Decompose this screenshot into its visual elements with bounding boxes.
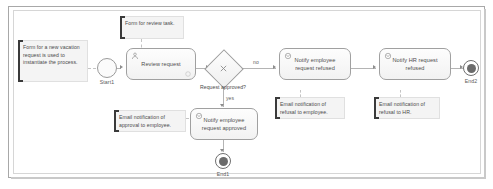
task-review-request[interactable]: Review request (126, 48, 196, 80)
note-start-form: Form for a new vacation request is used … (18, 40, 88, 82)
note-refusal-hr: Email notification of refusal to HR. (374, 97, 440, 119)
end-event-end1-label: End1 (203, 171, 243, 177)
flow-arrow-gateway-no (273, 65, 276, 69)
flow-label-no: no (253, 59, 259, 65)
task-review-request-label: Review request (141, 61, 180, 69)
note-refusal-hr-text: Email notification of refusal to HR. (379, 101, 425, 115)
start-event-label: Start1 (87, 79, 127, 85)
note-start-form-text: Form for a new vacation request is used … (23, 44, 80, 65)
note-approval-email-text: Email notification of approval to employ… (119, 114, 171, 128)
flow-arrow-refused-to-hr (373, 65, 376, 69)
flow-arrow-approved-to-end1 (220, 149, 224, 152)
end-event-end2[interactable] (463, 60, 479, 76)
end-event-end2-label: End2 (451, 78, 491, 84)
note-review-form: Form for review task. (120, 16, 184, 39)
task-notify-hr-refused-label: Notify HR request refused (385, 57, 445, 72)
end-event-end1[interactable] (215, 153, 231, 169)
message-task-icon (195, 112, 203, 120)
message-task-icon (284, 52, 292, 60)
note-approval-email: Email notification of approval to employ… (114, 110, 186, 132)
message-task-icon (384, 52, 392, 60)
end-event-core (467, 64, 476, 73)
assoc-refusal-employee-note-h (300, 90, 302, 97)
task-notify-hr-refused[interactable]: Notify HR request refused (379, 48, 451, 80)
start-event-start1[interactable] (97, 58, 117, 78)
end-event-core (219, 157, 228, 166)
task-resize-handle-icon (185, 71, 191, 77)
diagram-canvas: Form for a new vacation request is used … (0, 0, 493, 189)
task-notify-employee-approved-label: Notify employee request approved (196, 117, 252, 132)
flow-arrow-start-to-review (120, 65, 123, 69)
flow-label-yes: yes (226, 95, 234, 101)
assoc-start-note-h (88, 68, 96, 69)
assoc-refusal-hr-note-h (400, 90, 402, 97)
user-task-icon (131, 52, 139, 60)
gateway-request-approved[interactable] (210, 55, 236, 81)
task-notify-employee-refused-label: Notify employee request refused (285, 57, 345, 72)
note-refusal-employee-text: Email notification of refusal to employe… (280, 101, 328, 115)
task-notify-employee-refused[interactable]: Notify employee request refused (279, 48, 351, 80)
note-refusal-employee: Email notification of refusal to employe… (275, 97, 345, 119)
note-review-form-text: Form for review task. (125, 20, 174, 26)
gateway-label: Request approved? (191, 84, 255, 90)
diagram-inner-frame (13, 10, 481, 174)
task-notify-employee-approved[interactable]: Notify employee request approved (190, 108, 258, 140)
flow-arrow-gateway-yes (220, 104, 224, 107)
